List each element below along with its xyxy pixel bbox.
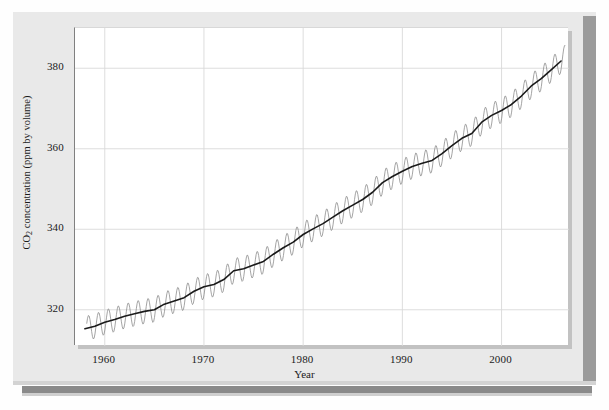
y-tick-label-380: 380	[22, 60, 64, 72]
figure-root: 320340360380 19601970198019902000 CO2 co…	[0, 0, 609, 410]
bottom-decorative-rule	[22, 386, 592, 393]
y-axis-title: CO2 concentration (ppm by volume)	[21, 100, 34, 250]
plot-area	[74, 27, 568, 345]
series-trend-co2	[85, 61, 561, 329]
x-tick-label-1960: 1960	[81, 353, 127, 365]
y-gridlines	[75, 68, 569, 310]
x-tick-label-1970: 1970	[180, 353, 226, 365]
panel-right-edge	[583, 16, 596, 381]
x-tick-label-2000: 2000	[478, 353, 524, 365]
y-axis-title-subscript: 2	[25, 231, 34, 235]
x-gridlines	[105, 28, 502, 346]
y-tick-label-320: 320	[22, 302, 64, 314]
bottom-decorative-rule-shadow	[22, 393, 592, 396]
panel-bottom-shadow	[13, 381, 596, 385]
y-axis-title-main: CO	[21, 235, 32, 250]
x-axis-title: Year	[0, 368, 609, 380]
x-tick-label-1980: 1980	[279, 353, 325, 365]
chart-canvas	[75, 28, 569, 346]
x-tick-label-1990: 1990	[378, 353, 424, 365]
y-axis-title-rest: concentration (ppm by volume)	[21, 96, 32, 231]
series-monthly-co2	[87, 46, 566, 339]
